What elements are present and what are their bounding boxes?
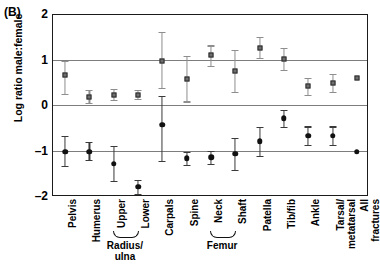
error-bar-cap <box>232 50 239 51</box>
x-tick-label: Carpals <box>165 199 176 273</box>
error-bar-cap <box>86 90 93 91</box>
error-bar-cap <box>135 180 142 181</box>
error-bar-cap <box>305 95 312 96</box>
error-bar-cap <box>86 160 93 161</box>
error-bar-cap <box>183 165 190 166</box>
error-bar-cap <box>135 90 142 91</box>
x-tick-label: Neck <box>214 199 225 273</box>
data-point <box>87 94 92 99</box>
plot-area <box>52 14 368 196</box>
data-point <box>136 92 141 97</box>
x-tick-label: Shaft <box>238 199 249 273</box>
error-bar-cap <box>329 126 336 127</box>
error-bar-cap <box>62 136 69 137</box>
error-bar-cap <box>256 156 263 157</box>
data-point <box>257 45 262 50</box>
y-tick-label: 1 <box>41 53 48 67</box>
error-bar-cap <box>86 103 93 104</box>
data-point <box>209 53 214 58</box>
error-bar-cap <box>159 161 166 162</box>
data-point <box>306 84 311 89</box>
error-bar-cap <box>232 138 239 139</box>
error-bar-cap <box>329 92 336 93</box>
error-bar-cap <box>232 92 239 93</box>
data-point <box>63 72 68 77</box>
error-bar <box>162 96 163 161</box>
x-tick-label: Pelvis <box>68 199 79 273</box>
data-point <box>257 139 263 145</box>
y-tick-label: 2 <box>41 7 48 21</box>
error-bar-cap <box>208 66 215 67</box>
error-bar-cap <box>110 146 117 147</box>
error-bar-cap <box>135 194 142 195</box>
x-tick-label: All fractures <box>360 199 380 273</box>
error-bar-cap <box>329 145 336 146</box>
data-point <box>208 155 214 161</box>
error-bar-cap <box>256 58 263 59</box>
error-bar-cap <box>208 151 215 152</box>
data-point <box>305 133 311 139</box>
error-bar-cap <box>159 96 166 97</box>
gridline <box>53 105 367 106</box>
x-tick-label: Ankle <box>311 199 322 273</box>
y-axis-ticks: 210–1–2 <box>20 0 48 273</box>
error-bar-cap <box>280 48 287 49</box>
data-point <box>281 57 286 62</box>
data-point <box>354 149 360 155</box>
error-bar-cap <box>62 166 69 167</box>
error-bar-cap <box>183 56 190 57</box>
data-point <box>354 75 359 80</box>
error-bar-cap <box>256 37 263 38</box>
figure-panel-b: (B) Log ratio male:female 210–1–2 Pelvis… <box>0 0 380 273</box>
x-tick-label: Humerus <box>92 199 103 273</box>
data-point <box>184 76 189 81</box>
error-bar-cap <box>280 127 287 128</box>
error-bar-cap <box>62 61 69 62</box>
y-tick-label: –2 <box>35 189 48 203</box>
error-bar-cap <box>305 126 312 127</box>
error-bar-cap <box>159 32 166 33</box>
error-bar-cap <box>329 74 336 75</box>
error-bar-cap <box>110 89 117 90</box>
error-bar-cap <box>183 101 190 102</box>
data-point <box>233 151 239 157</box>
x-tick-label: Upper <box>117 199 128 273</box>
data-point <box>111 161 117 167</box>
y-tick-label: –1 <box>35 144 48 158</box>
x-tick-label: Lower <box>141 199 152 273</box>
data-point <box>87 149 93 155</box>
x-tick-label: Tarsal/ metatarsal <box>336 199 357 273</box>
error-bar-cap <box>183 152 190 153</box>
error-bar-cap <box>305 145 312 146</box>
data-point <box>111 92 116 97</box>
data-point <box>233 69 238 74</box>
error-bar-cap <box>280 110 287 111</box>
data-point <box>160 58 165 63</box>
error-bar-cap <box>86 142 93 143</box>
error-bar-cap <box>159 88 166 89</box>
error-bar-cap <box>110 100 117 101</box>
data-point <box>160 122 166 128</box>
x-tick-label: Spine <box>190 199 201 273</box>
error-bar-cap <box>135 99 142 100</box>
data-point <box>281 116 287 122</box>
x-tick-label: Patella <box>263 199 274 273</box>
error-bar-cap <box>208 45 215 46</box>
error-bar-cap <box>208 164 215 165</box>
data-point <box>330 133 336 139</box>
error-bar-cap <box>256 127 263 128</box>
error-bar-cap <box>62 94 69 95</box>
error-bar-cap <box>110 181 117 182</box>
error-bar <box>65 61 66 95</box>
y-tick-label: 0 <box>41 98 48 112</box>
x-tick-label: Tib/fib <box>287 199 298 273</box>
data-point <box>62 149 68 155</box>
error-bar-cap <box>280 70 287 71</box>
error-bar-cap <box>232 170 239 171</box>
data-point <box>135 184 141 190</box>
data-point <box>184 156 190 162</box>
error-bar-cap <box>305 78 312 79</box>
x-axis-labels: PelvisHumerusUpperLowerCarpalsSpineNeckS… <box>52 199 368 273</box>
data-point <box>330 81 335 86</box>
